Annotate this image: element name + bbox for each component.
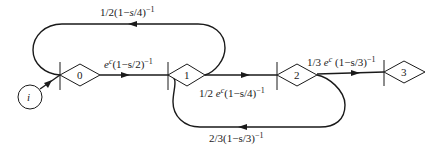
node-1-label: 1: [184, 69, 190, 81]
node-3-label: 3: [401, 66, 407, 78]
edge-label-1-to-2: 1/2 ec(1−s/4)−1: [199, 86, 265, 100]
arrow-left-icon: [238, 124, 247, 130]
arrow-left-icon: [128, 21, 137, 27]
arrow-right-icon: [44, 80, 52, 88]
flow-diagram: i 0 1 2 3 1/2(1−s/4)−1 ec(1−s/2)−1 1/2 e…: [0, 0, 438, 153]
edge-2-to-1-bottom-loop: [168, 75, 345, 127]
arrow-right-icon: [351, 70, 360, 76]
node-i-label: i: [27, 91, 30, 103]
edge-label-0-to-1: ec(1−s/2)−1: [104, 57, 153, 71]
edge-2-to-3: [317, 72, 384, 74]
node-2-label: 2: [294, 69, 300, 81]
edge-label-2-to-1: 2/3(1−s/3)−1: [209, 131, 263, 145]
arrow-right-icon: [241, 72, 250, 78]
node-0-label: 0: [77, 69, 83, 81]
arrow-right-icon: [121, 72, 130, 78]
edge-label-2-to-3: 1/3 ec (1−s/3)−1: [307, 55, 375, 69]
edge-label-1-to-0: 1/2(1−s/4)−1: [100, 5, 154, 19]
